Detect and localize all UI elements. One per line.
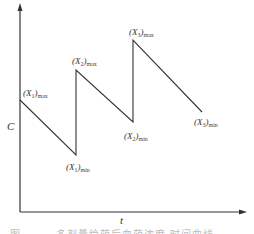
x-axis-label: t [120, 214, 124, 226]
x-axis-arrow-icon [239, 210, 247, 215]
concentration-time-chart: C t (X1)max (X1)min (X2)max (X2)min (X3)… [0, 0, 254, 234]
label-x2-max: (X2)max [72, 56, 97, 67]
y-axis-label: C [7, 120, 15, 132]
label-x2-min: (X2)min [124, 131, 148, 142]
y-axis [18, 3, 23, 212]
label-x1-min: (X1)min [66, 162, 90, 173]
figure-caption: 图 — — 多剂量给药后血药浓度-时间曲线 [10, 228, 250, 234]
x-axis [20, 210, 247, 215]
label-x3-max: (X3)max [129, 27, 154, 38]
label-x1-max: (X1)max [23, 88, 48, 99]
y-axis-arrow-icon [18, 3, 23, 11]
label-x3-min: (X3)min [194, 117, 218, 128]
